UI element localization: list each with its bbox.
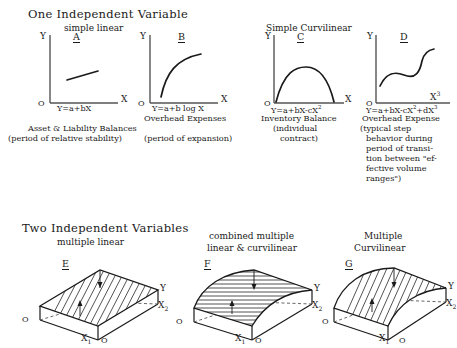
- panel-a-equation-main: Y=a+bX: [57, 104, 91, 113]
- panel-g-x2-axis-label: X2: [446, 298, 456, 310]
- panel-e-subtitle-line-0: multiple linear: [57, 237, 124, 247]
- panel-e-origin-left: O: [22, 315, 29, 324]
- panel-c-y-axis-label: Y: [265, 31, 271, 41]
- panel-d-key-text: D: [400, 32, 408, 43]
- panel-g-y-axis-label: Y: [448, 281, 454, 291]
- panel-c-key-text: C: [297, 32, 304, 43]
- panel-d-caption-line-6: ranges"): [366, 174, 401, 184]
- panel-b-equation: Y=a+b log X: [152, 104, 204, 113]
- panel-g-origin-left: O: [322, 317, 329, 326]
- panel-g-key: G: [345, 258, 353, 270]
- panel-g-origin-front: O: [399, 336, 406, 345]
- panel-c: [262, 33, 358, 111]
- panel-a-x-axis-label: X: [121, 94, 127, 104]
- panel-g-key-text: G: [345, 259, 353, 270]
- panel-a-key: A: [73, 31, 80, 43]
- panel-g-subtitle-line-1: Curvilinear: [354, 243, 406, 253]
- panel-f-subtitle-line-1: linear & curvilinear: [207, 243, 297, 253]
- panel-d-key: D: [400, 31, 408, 43]
- panel-d-x-axis-exponent: 3: [436, 90, 440, 97]
- panel-a-key-text: A: [73, 32, 80, 43]
- panel-a-plot: [34, 33, 130, 111]
- panel-d: [364, 33, 457, 111]
- panel-a-caption-line-1: (period of relative stability): [8, 134, 122, 144]
- panel-c-equation-exponent: 2: [318, 104, 321, 110]
- panel-a: [34, 33, 130, 111]
- panel-b-plot: [134, 33, 230, 111]
- panel-g-x1-axis-label: X1: [379, 333, 389, 345]
- panel-f-origin-front: O: [255, 336, 262, 345]
- panel-d-plot: [364, 33, 457, 111]
- panel-f-subtitle-line-0: combined multiple: [209, 231, 294, 241]
- panel-d-x-axis-label: X3: [430, 90, 440, 102]
- panel-f-solid: [172, 258, 332, 346]
- panel-b-key: B: [178, 31, 185, 43]
- panel-b-origin-label: O: [138, 99, 145, 108]
- panel-b-key-text: B: [178, 32, 185, 43]
- panel-g-x1-subscript: 1: [385, 338, 389, 345]
- panel-d-equation-tail-exponent: 3: [434, 104, 437, 110]
- panel-f-x1-subscript: 1: [241, 338, 245, 345]
- panel-f: [172, 258, 332, 346]
- panel-c-key: C: [297, 31, 304, 43]
- panel-c-plot: [262, 33, 358, 111]
- panel-e-solid: [18, 258, 178, 346]
- panel-e-key-text: E: [62, 259, 69, 270]
- panel-b-caption-line-0: Overhead Expenses: [144, 114, 226, 124]
- panel-f-origin-left: O: [176, 317, 183, 326]
- panel-e-key: E: [62, 258, 69, 270]
- panel-f-key-text: F: [204, 259, 211, 270]
- panel-c-caption-line-2: contract): [280, 134, 318, 144]
- panel-e-x2-subscript: 2: [164, 305, 168, 312]
- panel-g-subtitle-line-0: Multiple: [364, 231, 402, 241]
- section-two-title: Two Independent Variables: [22, 221, 189, 235]
- panel-f-key: F: [204, 258, 211, 270]
- panel-c-origin-label: O: [264, 99, 271, 108]
- section-one-title: One Independent Variable: [28, 7, 188, 21]
- panel-e-x1-subscript: 1: [87, 338, 91, 345]
- panel-b: [134, 33, 230, 111]
- panel-e-x1-axis-label: X1: [81, 333, 91, 345]
- panel-b-caption-line-1: (period of expansion): [144, 134, 232, 144]
- panel-e-y-axis-label: Y: [160, 283, 166, 293]
- panel-a-origin-label: O: [38, 99, 45, 108]
- panel-f-x1-axis-label: X1: [235, 333, 245, 345]
- panel-b-x-axis-label: X: [221, 94, 227, 104]
- panel-e-x2-axis-label: X2: [158, 300, 168, 312]
- panel-g-x2-subscript: 2: [452, 303, 456, 310]
- panel-b-y-axis-label: Y: [140, 31, 146, 41]
- panel-a-y-axis-label: Y: [40, 31, 46, 41]
- panel-e-origin-front: O: [101, 336, 108, 345]
- panel-a-equation: Y=a+bX: [57, 104, 91, 113]
- section-one-subtitle-right: Simple Curvilinear: [266, 23, 352, 33]
- panel-c-x-axis-label: X: [345, 94, 351, 104]
- panel-d-y-axis-label: Y: [367, 31, 373, 41]
- panel-b-equation-main: Y=a+b log X: [152, 104, 204, 113]
- panel-e: [18, 258, 178, 346]
